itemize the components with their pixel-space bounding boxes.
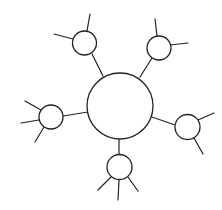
hub-node — [87, 73, 153, 139]
spoke-left-2 — [35, 127, 44, 142]
connector-top-left — [92, 54, 103, 76]
connector-left — [63, 112, 88, 116]
spoke-left-0 — [25, 101, 41, 110]
spoke-top-left-0 — [87, 14, 90, 31]
connector-right — [152, 117, 175, 125]
spoke-top-right-0 — [155, 19, 157, 36]
spoke-top-right-1 — [170, 43, 188, 45]
satellite-node-left — [39, 105, 63, 129]
satellite-node-bottom — [107, 155, 132, 180]
spoke-left-1 — [21, 120, 39, 123]
nodes-layer — [39, 31, 200, 180]
satellite-node-top-left — [73, 31, 97, 55]
spoke-top-left-1 — [54, 34, 73, 39]
spoke-right-0 — [198, 113, 214, 120]
spoke-bottom-1 — [118, 180, 119, 200]
spoke-bottom-2 — [128, 177, 138, 191]
connector-top-right — [140, 58, 152, 77]
spoke-bottom-0 — [98, 177, 111, 190]
hub-spoke-diagram — [0, 0, 222, 210]
spoke-right-1 — [194, 138, 203, 154]
satellite-node-right — [175, 115, 200, 140]
satellite-node-top-right — [147, 36, 171, 60]
